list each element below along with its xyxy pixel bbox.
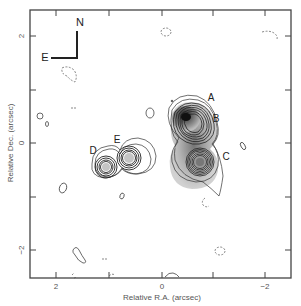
component-label-c: C [222,151,229,162]
peak-a [181,113,191,121]
compass-east-label: E [41,51,48,63]
y-tick-label-neg2: −2 [17,245,26,255]
x-axis-label: Relative R.A. (arcsec) [123,293,201,302]
compass-north-label: N [76,16,84,28]
source-de-contours [92,138,156,178]
y-ticks-right [285,36,291,250]
component-label-b: B [213,113,220,124]
x-tick-label-neg2: −2 [260,282,270,291]
y-ticks-left [30,36,36,250]
x-tick-label-2: 2 [54,282,59,291]
component-label-a: A [208,92,215,103]
x-ticks-top [56,10,265,16]
component-label-e: E [114,134,121,145]
y-axis-label: Relative Dec. (arcsec) [6,103,15,182]
x-tick-label-0: 0 [160,282,165,291]
x-ticks-bottom [56,272,265,278]
source-abc-contours [168,95,223,196]
contour-map: 2 0 −2 2 0 −2 Relative R.A. (arcsec) Rel… [0,0,301,306]
compass-indicator: N E [41,16,84,63]
plot-frame [30,10,291,278]
y-tick-label-2: 2 [17,33,26,38]
component-label-d: D [89,145,96,156]
y-tick-label-0: 0 [17,140,26,145]
